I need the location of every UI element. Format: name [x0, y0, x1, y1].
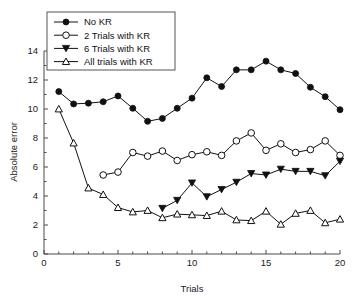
data-point	[307, 146, 314, 153]
data-point	[159, 148, 166, 155]
data-point	[278, 67, 284, 73]
legend-marker	[63, 32, 70, 39]
data-point	[248, 130, 255, 137]
legend-label: All trials with KR	[84, 56, 153, 67]
data-point	[204, 75, 210, 81]
x-tick-label: 20	[335, 257, 346, 268]
legend-label: 2 Trials with KR	[84, 30, 150, 41]
data-point	[263, 147, 270, 154]
data-point	[307, 84, 313, 90]
y-tick-label: 2	[33, 219, 38, 230]
data-point	[278, 141, 285, 148]
data-point	[130, 149, 137, 156]
x-tick-label: 5	[115, 257, 120, 268]
data-point	[144, 153, 151, 160]
data-point	[189, 151, 196, 158]
data-point	[100, 172, 107, 179]
x-axis-title: Trials	[181, 283, 204, 294]
y-tick-label: 14	[27, 45, 38, 56]
data-point	[189, 95, 195, 101]
chart-legend: No KR2 Trials with KR6 Trials with KRAll…	[47, 12, 175, 70]
data-point	[322, 138, 329, 145]
data-point	[115, 93, 121, 99]
x-tick-label: 15	[261, 257, 272, 268]
y-tick-label: 4	[33, 190, 38, 201]
y-tick-label: 12	[27, 74, 38, 85]
legend-marker	[63, 19, 69, 25]
data-point	[85, 100, 91, 106]
y-tick-label: 10	[27, 103, 38, 114]
data-point	[322, 94, 328, 100]
data-point	[218, 152, 225, 159]
legend-label: 6 Trials with KR	[84, 43, 150, 54]
data-point	[115, 169, 122, 176]
data-point	[145, 118, 151, 124]
chart-figure: 05101520 02468101214 Absolute error Tria…	[0, 0, 360, 299]
data-point	[233, 67, 239, 73]
y-tick-label: 8	[33, 132, 38, 143]
data-point	[293, 70, 299, 76]
data-point	[263, 58, 269, 64]
y-tick-label: 0	[33, 248, 38, 259]
data-point	[174, 157, 181, 164]
data-point	[248, 67, 254, 73]
data-point	[100, 99, 106, 105]
data-point	[204, 148, 211, 155]
data-point	[159, 115, 165, 121]
data-point	[174, 105, 180, 111]
data-point	[71, 101, 77, 107]
data-point	[337, 107, 343, 113]
data-point	[130, 105, 136, 111]
data-point	[337, 152, 344, 159]
data-point	[56, 89, 62, 95]
legend-label: No KR	[84, 16, 112, 27]
y-tick-label: 6	[33, 161, 38, 172]
absolute-error-line-chart: 05101520 02468101214 Absolute error Tria…	[0, 0, 360, 299]
y-axis-title: Absolute error	[8, 122, 19, 182]
data-point	[233, 138, 240, 145]
data-point	[219, 84, 225, 90]
x-tick-label: 10	[187, 257, 198, 268]
x-tick-label: 0	[41, 257, 46, 268]
data-point	[292, 149, 299, 156]
